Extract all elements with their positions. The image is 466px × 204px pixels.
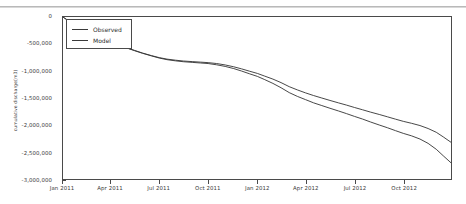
legend-item-observed: Observed xyxy=(72,24,126,35)
x-tick-mark-3 xyxy=(208,180,209,184)
x-tick-label-3: Oct 2011 xyxy=(195,185,221,191)
x-tick-mark-2 xyxy=(159,180,160,184)
y-tick-label-6: 0 xyxy=(48,13,52,19)
legend-item-model: Model xyxy=(72,35,126,46)
x-tick-mark-4 xyxy=(257,180,258,184)
x-tick-mark-7 xyxy=(404,180,405,184)
x-tick-label-5: Apr 2012 xyxy=(293,185,319,191)
y-tick-label-1: -2,500,000 xyxy=(22,150,52,156)
legend-line-swatch-model xyxy=(72,40,88,41)
x-tick-mark-1 xyxy=(110,180,111,184)
y-tick-label-0: -3,000,000 xyxy=(22,177,52,183)
y-tick-label-2: -2,000,000 xyxy=(22,122,52,128)
legend-label-model: Model xyxy=(93,38,111,44)
legend-label-observed: Observed xyxy=(93,27,122,33)
y-tick-label-3: -1,500,000 xyxy=(22,95,52,101)
x-tick-mark-5 xyxy=(306,180,307,184)
x-tick-mark-0 xyxy=(62,180,63,184)
x-tick-label-1: Apr 2011 xyxy=(97,185,123,191)
y-tick-label-4: -1,000,000 xyxy=(22,68,52,74)
chart-screenshot: cumulative discharge(m3) -3,000,000-2,50… xyxy=(0,0,466,204)
y-axis-tick-labels: -3,000,000-2,500,000-2,000,000-1,500,000… xyxy=(0,0,58,204)
x-tick-label-2: Jul 2011 xyxy=(147,185,170,191)
x-tick-label-4: Jan 2012 xyxy=(245,185,270,191)
legend-line-swatch-observed xyxy=(72,29,88,30)
x-tick-label-0: Jan 2011 xyxy=(50,185,75,191)
x-tick-label-7: Oct 2012 xyxy=(391,185,417,191)
legend-box: Observed Model xyxy=(66,19,132,49)
y-tick-label-5: -500,000 xyxy=(27,40,52,46)
x-tick-mark-6 xyxy=(355,180,356,184)
top-divider-rule-shadow xyxy=(0,7,466,8)
x-tick-label-6: Jul 2012 xyxy=(344,185,367,191)
